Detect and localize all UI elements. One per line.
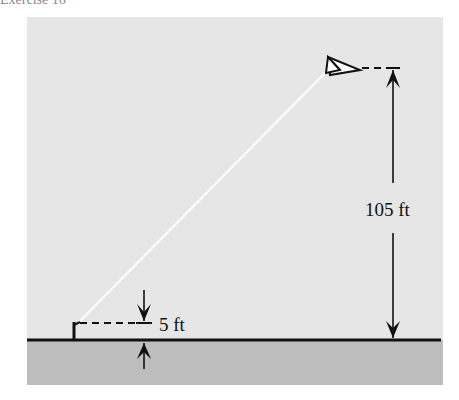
kite-height-label: 105 ft xyxy=(365,199,411,220)
ground-region xyxy=(27,340,443,385)
kite-diagram: 5 ft 105 ft xyxy=(0,0,459,400)
hand-height-label: 5 ft xyxy=(159,314,186,335)
sky-region xyxy=(27,17,443,340)
